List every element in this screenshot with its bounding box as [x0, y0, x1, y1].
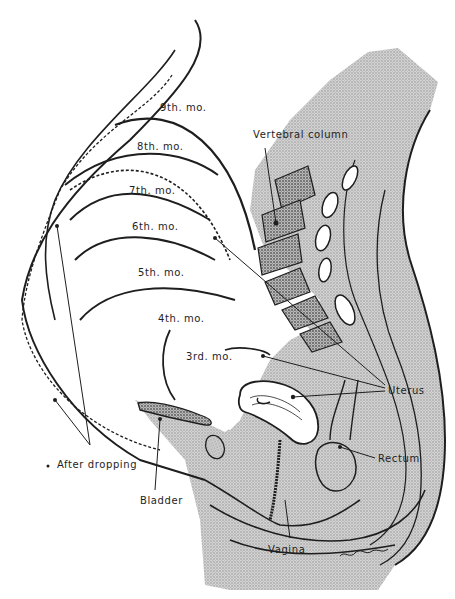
label-3rd-month: 3rd. mo. [186, 352, 233, 362]
anatomical-diagram [0, 0, 455, 599]
label-8th-month: 8th. mo. [137, 142, 184, 152]
label-uterus: Uterus [388, 386, 425, 396]
arc-7th-month [70, 194, 210, 220]
label-6th-month: 6th. mo. [132, 222, 179, 232]
label-9th-month: 9th. mo. [160, 103, 207, 113]
label-after-dropping: After dropping [57, 460, 137, 470]
label-7th-month: 7th. mo. [129, 186, 176, 196]
arc-4th-month-left [163, 330, 175, 400]
arc-6th-month [75, 237, 215, 260]
label-rectum: Rectum [378, 454, 420, 464]
label-vertebral-column: Vertebral column [253, 130, 348, 140]
abdominal-wall-after-dropping [22, 75, 172, 450]
label-bladder: Bladder [140, 496, 183, 506]
label-vagina: Vagina [268, 545, 305, 555]
label-4th-month: 4th. mo. [158, 314, 205, 324]
label-5th-month: 5th. mo. [138, 268, 185, 278]
